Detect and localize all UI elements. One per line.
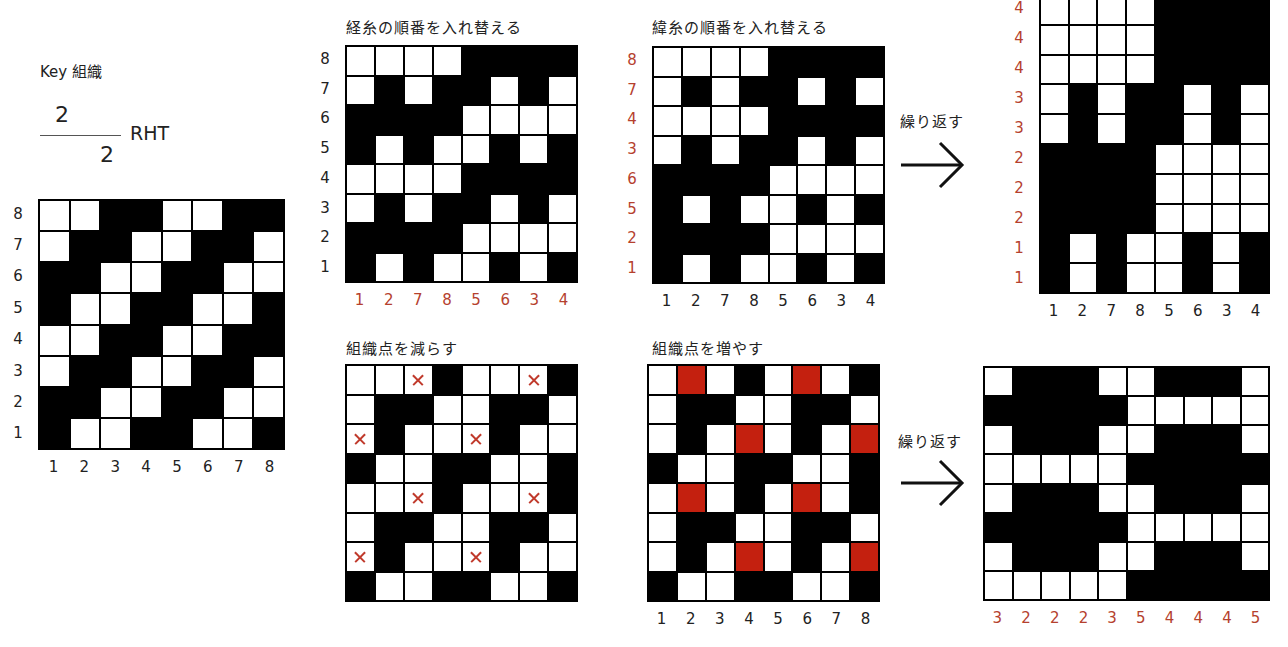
weave-cell: [712, 196, 739, 224]
weave-cell: [798, 166, 825, 194]
removed-point-cell: [405, 484, 432, 512]
weave-cell: [1070, 115, 1097, 143]
weave-cell: [463, 254, 490, 282]
weave-cell: [851, 573, 878, 601]
weave-cell: [520, 425, 547, 453]
weave-cell: [1014, 514, 1041, 541]
weave-cell: [1042, 368, 1069, 395]
weave-cell: [405, 77, 432, 105]
row-label: 4: [1009, 59, 1029, 77]
weave-cell: [654, 137, 681, 165]
weave-cell: [741, 137, 768, 165]
weave-cell: [491, 455, 518, 483]
weave-cell: [822, 573, 849, 601]
row-label: 1: [8, 424, 28, 442]
right-arrow-icon: [900, 140, 965, 190]
weave-cell: [71, 232, 100, 261]
weave-cell: [405, 47, 432, 75]
added-point-cell: [678, 484, 705, 512]
weave-cell: [827, 107, 854, 135]
weave-cell: [770, 166, 797, 194]
weave-cell: [491, 514, 518, 542]
row-label: 7: [315, 80, 335, 98]
weave-cell: [1184, 56, 1211, 84]
weave-cell: [1241, 175, 1268, 203]
weave-cell: [765, 514, 792, 542]
added-point-cell: [736, 543, 763, 571]
weave-cell: [549, 455, 576, 483]
weave-cell: [793, 396, 820, 424]
weave-cell: [1156, 234, 1183, 262]
weave-cell: [856, 196, 883, 224]
row-label: 4: [8, 330, 28, 348]
weave-cell: [649, 543, 676, 571]
row-label: 1: [1009, 269, 1029, 287]
weave-cell: [71, 294, 100, 323]
weave-cell: [649, 573, 676, 601]
weave-cell: [163, 326, 192, 355]
weave-cell: [520, 573, 547, 601]
weave-cell: [463, 165, 490, 193]
weave-cell: [683, 48, 710, 76]
col-label: 2: [74, 458, 94, 476]
weave-cell: [1014, 572, 1041, 599]
weave-cell: [376, 573, 403, 601]
weave-cell: [822, 514, 849, 542]
weave-cell: [793, 573, 820, 601]
col-label: 8: [855, 610, 875, 628]
weave-cell: [491, 425, 518, 453]
weave-cell: [654, 196, 681, 224]
weave-cell: [132, 201, 161, 230]
col-label: 4: [1246, 302, 1266, 320]
weave-cell: [434, 77, 461, 105]
weave-cell: [40, 326, 69, 355]
weave-cell: [1213, 368, 1240, 395]
col-label: 1: [1043, 302, 1063, 320]
row-label: 5: [8, 299, 28, 317]
weave-cell: [1156, 205, 1183, 233]
weave-cell: [71, 388, 100, 417]
weave-cell: [1042, 397, 1069, 424]
weave-cell: [132, 419, 161, 448]
weave-cell: [405, 396, 432, 424]
weave-cell: [741, 225, 768, 253]
col-label: 6: [1188, 302, 1208, 320]
weave-cell: [434, 514, 461, 542]
weave-cell: [434, 573, 461, 601]
weave-cell: [1070, 56, 1097, 84]
weave-cell: [1241, 26, 1268, 54]
col-label: 6: [198, 458, 218, 476]
col-label: 6: [797, 610, 817, 628]
weave-cell: [549, 425, 576, 453]
weave-cell: [712, 225, 739, 253]
weave-cell: [491, 77, 518, 105]
weave-cell: [491, 543, 518, 571]
weave-cell: [856, 137, 883, 165]
weave-cell: [1156, 572, 1183, 599]
weave-cell: [347, 106, 374, 134]
weave-cell: [520, 195, 547, 223]
weave-cell: [376, 484, 403, 512]
weave-cell: [678, 455, 705, 483]
weave-cell: [71, 357, 100, 386]
col-label: 5: [768, 610, 788, 628]
weave-cell: [654, 107, 681, 135]
weave-cell: [1184, 205, 1211, 233]
weave-cell: [1185, 514, 1212, 541]
warp-reorder-grid: [345, 45, 578, 283]
weave-cell: [193, 419, 222, 448]
weave-cell: [712, 137, 739, 165]
increase-points-title: 組織点を増やす: [652, 337, 764, 358]
weave-cell: [1241, 234, 1268, 262]
weave-cell: [856, 255, 883, 283]
weave-cell: [463, 514, 490, 542]
weave-cell: [822, 484, 849, 512]
weave-cell: [1242, 426, 1269, 453]
weave-cell: [132, 357, 161, 386]
weave-cell: [101, 357, 130, 386]
weave-cell: [463, 77, 490, 105]
weave-cell: [770, 137, 797, 165]
weave-cell: [1098, 0, 1125, 24]
row-label: 8: [315, 50, 335, 68]
col-label: 1: [652, 610, 672, 628]
